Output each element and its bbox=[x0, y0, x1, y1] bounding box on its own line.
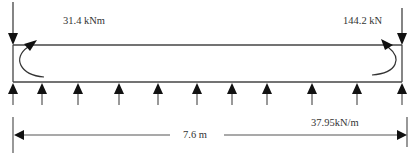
upward-load-arrow-icon bbox=[307, 83, 317, 105]
upward-load-arrow-icon bbox=[397, 83, 407, 105]
left-point-load-arrow-icon bbox=[8, 2, 18, 45]
upward-load-arrow-icon bbox=[352, 83, 362, 105]
upward-load-arrow-icon bbox=[262, 83, 272, 105]
moment-label: 31.4 kNm bbox=[63, 15, 105, 26]
span-label: 7.6 m bbox=[183, 129, 207, 140]
upward-load-arrow-icon bbox=[73, 83, 83, 105]
distributed-load-label: 37.95kN/m bbox=[311, 117, 359, 128]
beam-diagram: 31.4 kNm 144.2 kN 7.6 m 37.95kN/m bbox=[0, 0, 415, 161]
beam bbox=[13, 45, 402, 82]
distributed-load-arrows bbox=[8, 83, 407, 105]
upward-load-arrow-icon bbox=[37, 83, 47, 105]
point-load-label: 144.2 kN bbox=[343, 15, 383, 26]
upward-load-arrow-icon bbox=[192, 83, 202, 105]
upward-load-arrow-icon bbox=[153, 83, 163, 105]
right-point-load-arrow-icon bbox=[397, 8, 407, 45]
upward-load-arrow-icon bbox=[8, 83, 18, 105]
upward-load-arrow-icon bbox=[114, 83, 124, 105]
upward-load-arrow-icon bbox=[227, 83, 237, 105]
